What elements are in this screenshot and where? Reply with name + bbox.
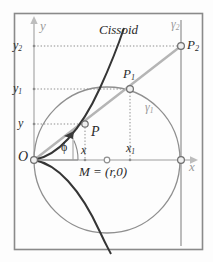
figure-canvas [0,0,213,262]
gamma1-label: γ1 [145,101,154,113]
point-label-P: P [91,125,100,139]
y-tick-label-y2: y2 [13,39,22,51]
right-vertex-marker [178,157,185,164]
x-axis-label: x [189,160,195,173]
gamma2-label: γ2 [171,18,180,30]
angle-phi-label: ϕ [61,141,67,153]
point-label-P2: P2 [187,38,199,51]
circle-center-label: M = (r,0) [79,165,127,178]
origin-label: O [18,150,28,164]
y-tick-label-y: y [18,117,23,129]
point-label-P1: P1 [123,67,135,80]
x-tick-label-x1: x1 [126,142,135,154]
center-marker [104,157,110,163]
x-tick-label-x: x [81,144,86,156]
point-p-marker [82,121,88,127]
point-p1-marker [127,86,134,93]
origin-marker [31,157,38,164]
y-axis-label: y [40,19,46,32]
cissoid-figure: Cissoid γ2 γ1 O x y y2 y1 y x x1 P P1 P2… [0,0,213,262]
y-tick-label-y1: y1 [13,82,22,94]
cissoid-curve-label: Cissoid [99,23,138,36]
point-p2-marker [178,43,185,50]
figure-frame-inner [18,17,200,247]
